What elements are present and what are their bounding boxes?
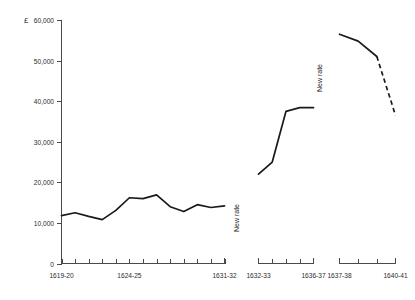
- x-axis-bracket-3: [340, 258, 396, 264]
- x-tick-label-group: 1619-201624-251631-321632-331636-371637-…: [49, 272, 408, 279]
- y-tick-label-1: 10,000: [34, 220, 55, 227]
- y-tick-label-2: 20,000: [34, 179, 55, 186]
- y-tick-label-5: 50,000: [34, 58, 55, 65]
- y-tick-label-6: 60,000: [34, 17, 55, 24]
- x-label-1632-33: 1632-33: [246, 272, 271, 279]
- x-label-1640-41: 1640-41: [383, 272, 408, 279]
- x-label-1624-25: 1624-25: [117, 272, 142, 279]
- y-tick-label-3: 30,000: [34, 139, 55, 146]
- y-axis: 010,00020,00030,00040,00050,00060,000: [34, 17, 62, 268]
- x-tick-group-3: [359, 259, 378, 264]
- y-tick-label-4: 40,000: [34, 98, 55, 105]
- series-line-new-rate-1637: [340, 34, 377, 56]
- y-tick-group: [57, 21, 62, 265]
- x-tick-group-1: [63, 259, 226, 264]
- y-tick-label-group: 010,00020,00030,00040,00050,00060,000: [34, 17, 55, 268]
- annotation-new-rate-1: New rate: [233, 204, 240, 232]
- chart-container: £ 010,00020,00030,00040,00050,00060,000 …: [0, 0, 415, 300]
- series-line-old-rate: [62, 195, 225, 220]
- y-tick-label-0: 0: [50, 261, 54, 268]
- x-axis-segment-3: [340, 258, 396, 264]
- data-series-group: [62, 34, 396, 219]
- x-tick-group-2: [273, 259, 301, 264]
- x-label-1619-20: 1619-20: [49, 272, 74, 279]
- x-label-1637-38: 1637-38: [327, 272, 352, 279]
- x-label-1636-37: 1636-37: [301, 272, 326, 279]
- currency-symbol-label: £: [24, 16, 29, 25]
- x-axis-segment-1: [62, 258, 226, 264]
- line-chart-svg: £ 010,00020,00030,00040,00050,00060,000 …: [0, 0, 415, 300]
- x-label-1631-32: 1631-32: [212, 272, 237, 279]
- series-line-new-rate-1632: [259, 108, 314, 175]
- series-line-new-rate-1637-projected: [377, 57, 396, 116]
- x-axis-segment-2: [259, 258, 314, 264]
- annotation-new-rate-2: New rate: [316, 64, 323, 92]
